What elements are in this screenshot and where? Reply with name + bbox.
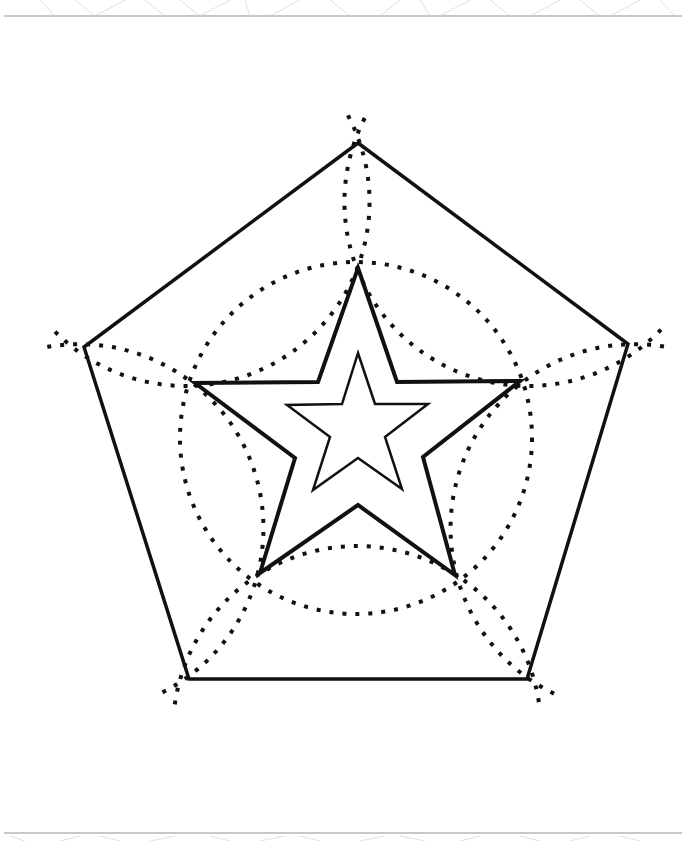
dotted-arc	[451, 344, 667, 693]
border-pattern-line	[260, 836, 285, 841]
border-pattern-line	[210, 836, 230, 841]
border-pattern-line	[40, 0, 55, 16]
inner-star-outline	[287, 353, 428, 490]
border-pattern-line	[580, 0, 600, 16]
dotted-construction-arcs	[47, 115, 666, 704]
border-pattern-line	[150, 836, 175, 841]
bottom-border	[4, 833, 682, 841]
border-pattern-line	[330, 0, 350, 16]
border-pattern-line	[95, 0, 125, 16]
border-pattern-line	[10, 836, 25, 841]
border-pattern-line	[300, 836, 320, 841]
border-pattern-line	[245, 0, 250, 16]
border-pattern-line	[610, 0, 640, 16]
border-pattern-line	[660, 0, 675, 16]
border-pattern-line	[145, 0, 165, 16]
border-pattern-line	[380, 0, 400, 16]
outer-star-outline	[195, 268, 520, 575]
border-pattern-line	[180, 0, 200, 16]
border-pattern-line	[75, 0, 95, 16]
border-pattern-line	[440, 0, 470, 16]
worksheet-canvas	[0, 0, 686, 841]
border-pattern-line	[490, 0, 510, 16]
border-pattern-line	[570, 836, 590, 841]
top-border	[4, 0, 682, 16]
dotted-arc	[47, 344, 263, 693]
dotted-guide-circle	[180, 262, 532, 614]
border-pattern-line	[60, 836, 80, 841]
pentagon-outline	[84, 143, 628, 679]
border-pattern-line	[420, 0, 430, 16]
border-pattern-line	[270, 0, 300, 16]
border-pattern-line	[360, 836, 385, 841]
border-pattern-line	[530, 0, 560, 16]
border-pattern-line	[400, 836, 425, 841]
border-pattern-line	[520, 836, 540, 841]
border-pattern-line	[460, 836, 480, 841]
border-pattern-line	[200, 0, 230, 16]
border-pattern-line	[620, 836, 640, 841]
border-pattern-line	[100, 836, 120, 841]
